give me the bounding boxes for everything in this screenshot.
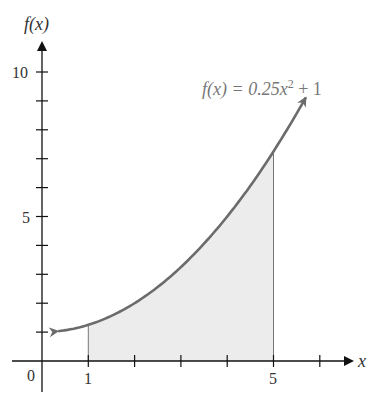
- x-tick-label-1: 1: [84, 370, 92, 387]
- y-tick-label-10: 10: [12, 64, 28, 81]
- x-axis-label: x: [357, 351, 366, 371]
- x-tick-label-5: 5: [269, 370, 277, 387]
- function-label: f(x) = 0.25x2 + 1: [202, 77, 322, 100]
- chart: f(x) x 0 1 5 5 10 f(x) = 0.25x2 + 1: [0, 0, 376, 410]
- y-axis-label: f(x): [24, 14, 49, 35]
- origin-label: 0: [27, 367, 35, 384]
- y-tick-label-5: 5: [22, 209, 30, 226]
- shaded-area: [88, 152, 273, 362]
